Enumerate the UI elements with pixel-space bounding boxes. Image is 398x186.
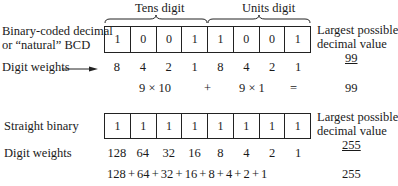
bcd-eq-equals: =	[290, 81, 297, 96]
binary-weight: 1	[285, 146, 311, 161]
binary-weight: 8	[208, 146, 234, 161]
bcd-largest-line2: decimal value	[317, 37, 387, 52]
binary-largest-line2: decimal value	[317, 124, 387, 139]
bcd-weight: 1	[182, 60, 208, 75]
binary-weight: 32	[156, 146, 182, 161]
binary-weight: 64	[130, 146, 156, 161]
bcd-weight: 2	[156, 60, 182, 75]
binary-bit: 1	[234, 114, 260, 138]
bcd-weight: 4	[233, 60, 259, 75]
bcd-bit-box: 1 0 0 1 1 0 0 1	[104, 26, 311, 53]
bcd-bit: 0	[157, 27, 183, 52]
binary-weight: 16	[182, 146, 208, 161]
binary-bit: 1	[157, 114, 183, 138]
bcd-eq-plus: +	[204, 81, 211, 96]
binary-bit-box: 1 1 1 1 1 1 1 1	[104, 113, 311, 139]
binary-bit: 1	[131, 114, 157, 138]
bcd-bit: 0	[131, 27, 157, 52]
bcd-weights-row: 8 4 2 1 8 4 2 1	[104, 60, 311, 75]
binary-sum-expression: 128 + 64 + 32 + 16 + 8 + 4 + 2 + 1	[107, 167, 267, 182]
units-brace-icon	[207, 14, 311, 24]
bcd-bit: 1	[105, 27, 131, 52]
bcd-bit: 0	[260, 27, 286, 52]
bcd-weight: 8	[208, 60, 234, 75]
binary-bit: 1	[182, 114, 208, 138]
bcd-weights-label: Digit weights	[2, 60, 70, 75]
bcd-bit: 0	[234, 27, 260, 52]
bcd-weight: 2	[259, 60, 285, 75]
bcd-label-line1: Binary-coded decimal	[2, 24, 113, 39]
binary-bit: 1	[105, 114, 131, 138]
binary-weight: 128	[104, 146, 130, 161]
binary-label: Straight binary	[4, 119, 79, 134]
bcd-label-line2: or “natural” BCD	[2, 38, 90, 53]
bcd-eq-tens: 9 × 10	[139, 81, 171, 96]
bcd-bit: 1	[182, 27, 208, 52]
bcd-largest-value: 99	[345, 51, 358, 66]
binary-bit: 1	[285, 114, 310, 138]
tens-brace-icon	[104, 14, 208, 24]
bcd-eq-units: 9 × 1	[239, 81, 265, 96]
bcd-bit: 1	[208, 27, 234, 52]
binary-weights-label: Digit weights	[4, 146, 72, 161]
binary-largest-value: 255	[342, 138, 361, 153]
binary-largest-line1: Largest possible	[317, 110, 398, 125]
binary-weights-row: 128 64 32 16 8 4 2 1	[104, 146, 311, 161]
bcd-weight: 1	[285, 60, 311, 75]
binary-bit: 1	[208, 114, 234, 138]
bcd-weight: 8	[104, 60, 130, 75]
binary-sum-result: 255	[342, 167, 361, 182]
bcd-largest-line1: Largest possible	[317, 23, 398, 38]
bcd-bit: 1	[285, 27, 310, 52]
arrow-icon	[62, 66, 98, 72]
bcd-eq-result: 99	[345, 81, 358, 96]
binary-weight: 4	[233, 146, 259, 161]
bcd-weight: 4	[130, 60, 156, 75]
binary-weight: 2	[259, 146, 285, 161]
binary-bit: 1	[260, 114, 286, 138]
